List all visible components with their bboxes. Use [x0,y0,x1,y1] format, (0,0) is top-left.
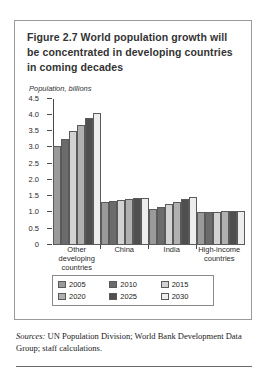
y-axis-tick: 4.5 [47,98,52,99]
y-axis-tick-label: 3.5 [29,126,39,135]
legend-label: 2025 [120,292,137,301]
bar [157,207,165,245]
legend-swatch [109,293,117,300]
y-axis-tick: 4.0 [47,114,52,115]
legend-label: 2030 [172,292,189,301]
sources-prefix: Sources: [16,331,45,341]
y-axis-tick-label: 2.5 [29,158,39,167]
y-axis-tick: 2.0 [47,179,52,180]
bar [125,199,133,245]
bar [117,200,125,245]
legend-label: 2015 [172,280,189,289]
figure-title-line-3: in coming decades [27,61,123,73]
legend-swatch [109,281,117,288]
legend-swatch [161,281,169,288]
legend-item: 2005 [58,280,105,289]
bar [165,204,173,245]
x-axis-category-label: High-incomecountries [196,245,244,273]
bar [53,146,61,245]
y-axis-tick-label: 0 [35,239,39,248]
legend-label: 2020 [69,292,86,301]
legend-swatch [58,281,66,288]
figure-title: Figure 2.7 World population growth will … [15,21,251,75]
figure-title-line-1: Figure 2.7 World population growth will [27,31,227,43]
legend-item: 2020 [58,292,105,301]
legend-label: 2005 [69,280,86,289]
bar [69,131,77,245]
legend-item: 2030 [161,292,208,301]
y-axis-tick-label: 1.0 [29,207,39,216]
legend-item: 2025 [109,292,156,301]
y-axis-tick-label: 0.5 [29,223,39,232]
legend-item: 2015 [161,280,208,289]
bar [213,212,221,245]
x-axis-labels: OtherdevelopingcountriesChinaIndiaHigh-i… [53,245,243,273]
x-axis-category-label: India [148,245,196,273]
bar [173,202,181,245]
y-axis-tick: 3.5 [47,130,52,131]
bar-group [197,99,245,245]
sources-note: Sources: UN Population Division; World B… [16,330,244,355]
chart-plot-area: 00.51.01.52.02.53.03.54.04.5 Otherdevelo… [15,95,251,273]
y-axis-tick: 2.5 [47,163,52,164]
y-axis-label: Population, billions [29,84,251,93]
bar [221,211,229,244]
y-axis-tick-label: 4.5 [29,93,39,102]
bar [141,198,149,245]
bar [237,211,245,244]
x-axis-category-label: China [101,245,149,273]
bar-group [101,99,149,245]
bar [189,197,197,244]
sources-text: UN Population Division; World Bank Devel… [16,331,242,353]
y-axis-tick-label: 3.0 [29,142,39,151]
y-axis-tick: 0.5 [47,228,52,229]
bar [109,201,117,245]
bar-groups [53,99,243,245]
bar-group [53,99,101,245]
x-axis-category-label: Otherdevelopingcountries [53,245,101,273]
bar [61,139,69,244]
legend-swatch [161,293,169,300]
y-axis-tick-label: 2.0 [29,174,39,183]
bar-group [149,99,197,245]
bar [77,125,85,245]
y-axis-tick: 0 [47,244,52,245]
figure-title-line-2: be concentrated in developing countries [27,46,233,58]
chart-legend: 200520102015202020252030 [52,275,214,306]
bar [229,211,237,244]
bottom-rule [16,366,252,367]
bar [205,212,213,245]
legend-label: 2010 [120,280,137,289]
legend-swatch [58,293,66,300]
y-axis-tick-label: 1.5 [29,191,39,200]
y-axis-tick: 1.5 [47,195,52,196]
bar [181,199,189,244]
legend-item: 2010 [109,280,156,289]
bar [101,202,109,245]
bar [149,209,157,245]
figure-box: Figure 2.7 World population growth will … [14,20,252,320]
y-axis-tick: 1.0 [47,211,52,212]
bar [85,118,93,245]
y-axis-tick: 3.0 [47,146,52,147]
bar [197,212,205,244]
bar [93,113,101,244]
y-axis-tick-label: 4.0 [29,109,39,118]
bar [133,198,141,245]
